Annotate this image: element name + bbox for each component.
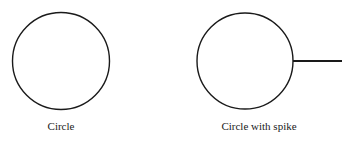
- circle-with-spike: [197, 13, 342, 109]
- spiked-circle: [197, 13, 293, 109]
- circle-with-spike-label: Circle with spike: [221, 120, 296, 132]
- circle-label: Circle: [48, 120, 75, 132]
- plain-circle: [13, 13, 110, 110]
